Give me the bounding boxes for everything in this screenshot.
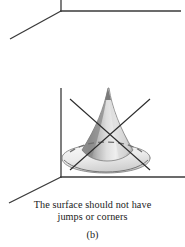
upper-axes-group (10, 0, 181, 39)
figure-panel-b: The surface should not have jumps or cor… (0, 0, 185, 247)
upper-depth-axis (10, 11, 61, 39)
figure-caption: The surface should not have jumps or cor… (0, 199, 185, 222)
panel-label: (b) (0, 229, 185, 240)
caption-line-2: jumps or corners (0, 211, 185, 223)
caption-line-1: The surface should not have (0, 199, 185, 211)
